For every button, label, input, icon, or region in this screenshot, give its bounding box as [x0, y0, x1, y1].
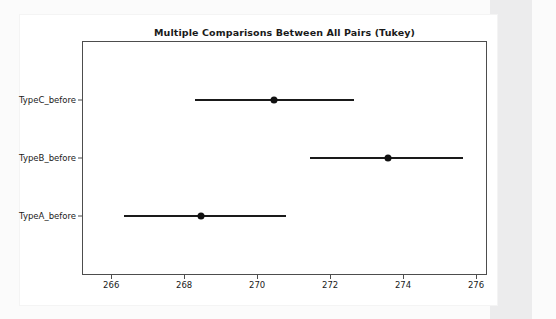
xtick-mark-268: [184, 275, 185, 279]
ytick-mark-typec-before: [78, 100, 82, 101]
ytick-mark-typeb-before: [78, 158, 82, 159]
ytick-label-typeb-before: TypeB_before: [19, 153, 76, 163]
xtick-label-270: 270: [249, 280, 265, 290]
xtick-mark-274: [403, 275, 404, 279]
chart-title: Multiple Comparisons Between All Pairs (…: [82, 27, 487, 38]
tukey-comparison-chart: Multiple Comparisons Between All Pairs (…: [0, 0, 556, 319]
mean-marker-typeb-before: [385, 155, 392, 162]
ytick-mark-typea-before: [78, 216, 82, 217]
mean-marker-typec-before: [270, 97, 277, 104]
mean-marker-typea-before: [197, 213, 204, 220]
xtick-mark-270: [257, 275, 258, 279]
xtick-label-274: 274: [395, 280, 411, 290]
xtick-label-276: 276: [468, 280, 484, 290]
ytick-label-typec-before: TypeC_before: [19, 95, 76, 105]
xtick-label-268: 268: [176, 280, 192, 290]
xtick-label-272: 272: [322, 280, 338, 290]
xtick-mark-276: [476, 275, 477, 279]
ci-line-typea-before: [124, 215, 286, 217]
xtick-label-266: 266: [103, 280, 119, 290]
xtick-mark-272: [330, 275, 331, 279]
ytick-label-typea-before: TypeA_before: [19, 211, 76, 221]
xtick-mark-266: [111, 275, 112, 279]
y-axis-tick-labels: TypeC_before TypeB_before TypeA_before: [0, 0, 76, 319]
